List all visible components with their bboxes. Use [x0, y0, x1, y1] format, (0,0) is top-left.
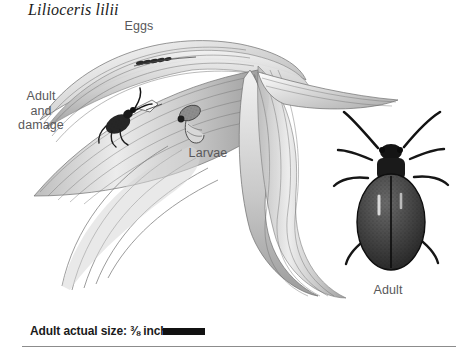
footer-divider: [22, 346, 456, 347]
label-larvae: Larvae: [173, 146, 243, 161]
label-adult: Adult: [353, 283, 423, 298]
adult-beetle-dorsal-group: [334, 112, 448, 270]
illustration-figure: Lilioceris lilii: [0, 0, 470, 354]
scale-caption: Adult actual size: ⅜ inch: [30, 324, 168, 338]
scale-bar: [163, 328, 205, 335]
label-adult-and-damage: Adult and damage: [8, 89, 74, 133]
label-eggs: Eggs: [104, 19, 174, 34]
caption-bar: Adult actual size: ⅜ inch: [0, 318, 470, 354]
lily-leaves-group: [34, 41, 398, 298]
